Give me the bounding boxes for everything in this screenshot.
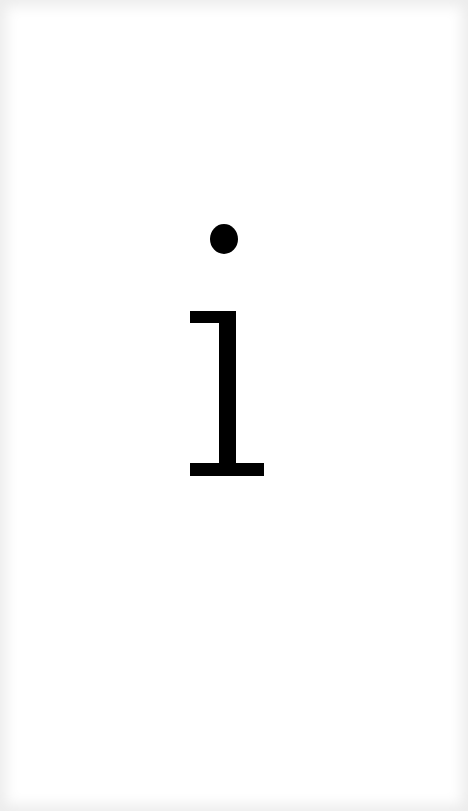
glyph-dot (210, 224, 238, 254)
canvas: i (0, 0, 468, 811)
glyph-bottom-serif (190, 463, 264, 476)
glyph-stem (219, 311, 236, 475)
letter-i-glyph (0, 0, 468, 811)
